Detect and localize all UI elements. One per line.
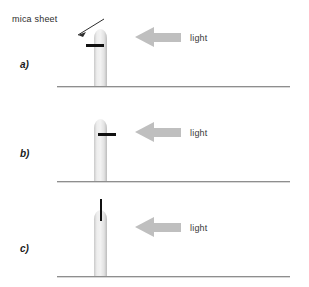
phototropism-figure: mica sheet light a) light (0, 0, 309, 287)
mica-sheet-a (86, 44, 104, 47)
light-arrow-b (135, 122, 181, 143)
light-label-b: light (190, 128, 208, 138)
coleoptile-b (94, 119, 107, 181)
ground-line-b (57, 181, 290, 182)
panel-b: light b) (0, 95, 309, 191)
arrow-shaft (153, 128, 181, 137)
ground-line-c (57, 276, 290, 277)
mica-sheet-b (98, 133, 116, 136)
arrow-head-icon (135, 122, 154, 142)
arrow-shaft (153, 223, 181, 232)
panel-c: light c) (0, 190, 309, 286)
panel-letter-c: c) (20, 243, 29, 254)
light-label-c: light (190, 223, 208, 233)
arrow-head-icon (135, 217, 154, 237)
mica-sheet-c (100, 199, 102, 221)
arrow-head-icon (135, 27, 154, 47)
mica-sheet-label: mica sheet (12, 14, 58, 24)
light-arrow-a (135, 27, 181, 48)
arrow-shaft (153, 33, 181, 42)
panel-a: mica sheet light a) (0, 0, 309, 96)
panel-letter-b: b) (20, 148, 29, 159)
light-arrow-c (135, 217, 181, 238)
ground-line-a (57, 86, 290, 87)
coleoptile-a (94, 29, 107, 86)
light-label-a: light (190, 33, 208, 43)
panel-letter-a: a) (20, 59, 29, 70)
